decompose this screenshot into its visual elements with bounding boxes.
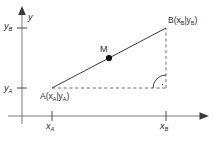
point-b-label: B(xB|yB) bbox=[168, 16, 197, 25]
point-b-x-sub: B bbox=[181, 20, 185, 26]
midpoint-diagram: y yB yA xA xB A(xA|yA) B(xB|yB) M bbox=[0, 0, 217, 142]
point-a-prefix: A( bbox=[40, 91, 49, 101]
x-axis-arrowhead-icon bbox=[200, 112, 210, 120]
x-tick-label-xb-base: x bbox=[160, 121, 165, 131]
point-m-label: M bbox=[100, 45, 108, 54]
y-tick-label-yb: yB bbox=[4, 22, 12, 31]
x-tick-label-xb-sub: B bbox=[165, 126, 169, 132]
point-b-y-sub: B bbox=[191, 20, 195, 26]
point-a-x-sub: A bbox=[53, 96, 57, 102]
right-angle-dot-icon bbox=[162, 84, 164, 86]
y-tick-label-ya: yA bbox=[4, 84, 12, 93]
x-tick-label-xb: xB bbox=[160, 122, 168, 131]
y-tick-label-ya-sub: A bbox=[9, 88, 13, 94]
y-axis-label: y bbox=[28, 13, 33, 22]
y-axis-arrowhead-icon bbox=[18, 6, 26, 15]
right-angle-arc-icon bbox=[153, 75, 166, 88]
x-tick-label-xa-sub: A bbox=[51, 126, 55, 132]
point-a-y-sub: A bbox=[63, 96, 67, 102]
point-a-label: A(xA|yA) bbox=[40, 92, 69, 101]
y-tick-label-ya-base: y bbox=[4, 83, 9, 93]
point-m-marker bbox=[106, 55, 112, 61]
point-b-prefix: B( bbox=[168, 15, 177, 25]
y-tick-label-yb-base: y bbox=[4, 21, 9, 31]
x-tick-label-xa: xA bbox=[46, 122, 54, 131]
x-tick-label-xa-base: x bbox=[46, 121, 51, 131]
y-tick-label-yb-sub: B bbox=[9, 26, 13, 32]
